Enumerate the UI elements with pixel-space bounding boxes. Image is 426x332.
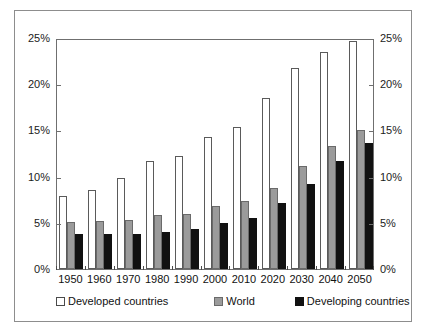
y-tick-mark-right-20% xyxy=(369,85,374,86)
x-tick-label-2050: 2050 xyxy=(344,274,376,285)
bar-world-1950 xyxy=(67,222,75,269)
bar-developing-2010 xyxy=(249,218,257,269)
x-tick-mark-2050 xyxy=(345,266,346,270)
bar-group-1960 xyxy=(88,40,112,269)
bar-developing-2000 xyxy=(220,223,228,269)
bar-group-2050 xyxy=(349,40,373,269)
bar-world-2050 xyxy=(357,130,365,269)
bar-developed-2030 xyxy=(291,68,299,269)
bar-group-1990 xyxy=(175,40,199,269)
x-tick-mark-2000 xyxy=(201,266,202,270)
y-tick-mark-left-10% xyxy=(56,178,61,179)
bar-developed-2010 xyxy=(233,127,241,269)
bar-developed-2020 xyxy=(262,98,270,269)
bar-group-2000 xyxy=(204,40,228,269)
bar-world-1960 xyxy=(96,221,104,269)
y-tick-label-right-20%: 20% xyxy=(380,79,420,90)
bar-developed-1950 xyxy=(59,196,67,269)
y-tick-mark-right-15% xyxy=(369,131,374,132)
bar-developing-2050 xyxy=(365,143,373,269)
bar-developing-1960 xyxy=(104,234,112,269)
y-tick-mark-right-5% xyxy=(369,224,374,225)
y-tick-mark-left-15% xyxy=(56,131,61,132)
legend-swatch-world-icon xyxy=(214,297,223,306)
x-tick-label-2030: 2030 xyxy=(286,274,318,285)
bar-group-1970 xyxy=(117,40,141,269)
bar-world-2000 xyxy=(212,206,220,269)
bar-world-1980 xyxy=(154,215,162,269)
x-tick-label-1990: 1990 xyxy=(170,274,202,285)
bar-developed-1970 xyxy=(117,178,125,269)
legend-swatch-developed-icon xyxy=(56,297,65,306)
y-tick-mark-left-20% xyxy=(56,85,61,86)
bar-developing-1970 xyxy=(133,234,141,269)
legend-swatch-developing-icon xyxy=(295,297,304,306)
x-tick-mark-2040 xyxy=(316,266,317,270)
bar-developed-2000 xyxy=(204,137,212,269)
chart-legend: Developed countriesWorldDeveloping count… xyxy=(56,295,386,307)
y-tick-label-left-5%: 5% xyxy=(14,218,50,229)
legend-label: World xyxy=(226,295,255,307)
x-tick-mark-1990 xyxy=(172,266,173,270)
bar-world-2040 xyxy=(328,146,336,269)
bar-developed-2040 xyxy=(320,52,328,269)
bar-developing-2040 xyxy=(336,161,344,269)
x-tick-mark-1950 xyxy=(56,266,57,270)
bar-developing-1980 xyxy=(162,232,170,269)
x-tick-mark-end xyxy=(373,266,374,270)
x-tick-label-1970: 1970 xyxy=(112,274,144,285)
x-tick-label-1960: 1960 xyxy=(83,274,115,285)
y-tick-label-left-15%: 15% xyxy=(14,125,50,136)
bar-group-2030 xyxy=(291,40,315,269)
x-tick-mark-1970 xyxy=(114,266,115,270)
y-tick-label-right-25%: 25% xyxy=(380,33,420,44)
x-tick-label-1980: 1980 xyxy=(141,274,173,285)
bar-developed-1990 xyxy=(175,156,183,269)
bar-world-2010 xyxy=(241,201,249,269)
legend-label: Developing countries xyxy=(307,295,410,307)
x-tick-mark-1980 xyxy=(143,266,144,270)
legend-label: Developed countries xyxy=(68,295,168,307)
bar-developing-1990 xyxy=(191,229,199,269)
bar-group-2020 xyxy=(262,40,286,269)
x-tick-label-1950: 1950 xyxy=(54,274,86,285)
legend-item-world[interactable]: World xyxy=(214,295,255,307)
bar-world-2030 xyxy=(299,166,307,269)
y-tick-mark-right-10% xyxy=(369,178,374,179)
y-tick-label-right-5%: 5% xyxy=(380,218,420,229)
x-tick-label-2020: 2020 xyxy=(257,274,289,285)
x-tick-mark-2030 xyxy=(287,266,288,270)
bar-developing-1950 xyxy=(75,234,83,269)
bar-developing-2030 xyxy=(307,184,315,269)
bar-developed-2050 xyxy=(349,41,357,269)
bar-developed-1980 xyxy=(146,161,154,269)
y-tick-label-left-10%: 10% xyxy=(14,172,50,183)
bar-developing-2020 xyxy=(278,203,286,269)
chart-figure: Developed countriesWorldDeveloping count… xyxy=(0,0,426,332)
x-tick-mark-1960 xyxy=(85,266,86,270)
x-tick-label-2000: 2000 xyxy=(199,274,231,285)
bar-group-2010 xyxy=(233,40,257,269)
x-tick-mark-2020 xyxy=(258,266,259,270)
bar-world-2020 xyxy=(270,188,278,269)
bars-layer xyxy=(57,40,373,269)
y-tick-label-right-10%: 10% xyxy=(380,172,420,183)
legend-item-developing[interactable]: Developing countries xyxy=(295,295,410,307)
y-tick-label-left-0%: 0% xyxy=(14,264,50,275)
plot-area xyxy=(56,39,374,270)
bar-group-1950 xyxy=(59,40,83,269)
y-tick-label-left-25%: 25% xyxy=(14,33,50,44)
x-tick-mark-2010 xyxy=(229,266,230,270)
y-tick-label-right-15%: 15% xyxy=(380,125,420,136)
y-tick-mark-left-5% xyxy=(56,224,61,225)
bar-world-1970 xyxy=(125,220,133,269)
y-tick-label-right-0%: 0% xyxy=(380,264,420,275)
bar-group-2040 xyxy=(320,40,344,269)
x-tick-label-2040: 2040 xyxy=(315,274,347,285)
legend-item-developed[interactable]: Developed countries xyxy=(56,295,168,307)
bar-developed-1960 xyxy=(88,190,96,269)
y-tick-label-left-20%: 20% xyxy=(14,79,50,90)
bar-group-1980 xyxy=(146,40,170,269)
x-tick-label-2010: 2010 xyxy=(228,274,260,285)
bar-world-1990 xyxy=(183,214,191,269)
